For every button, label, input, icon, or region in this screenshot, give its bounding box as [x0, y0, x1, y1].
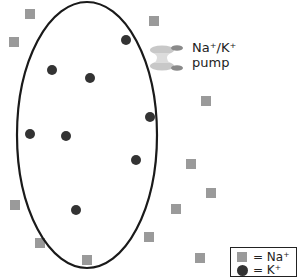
- sodium-ion-icon: [9, 37, 19, 47]
- potassium-ion-icon: [71, 205, 81, 215]
- potassium-ion-icon: [145, 112, 155, 122]
- legend-item-potassium: = K⁺: [237, 264, 281, 276]
- sodium-ion-icon: [144, 232, 154, 242]
- potassium-ion-icon: [47, 65, 57, 75]
- sodium-ion-icon: [186, 159, 196, 169]
- pump-label: Na⁺/K⁺ pump: [192, 40, 236, 70]
- sodium-ion-icon: [201, 96, 211, 106]
- pump-icon: [150, 45, 183, 71]
- sodium-ion-icon: [25, 9, 35, 19]
- potassium-ion-icon: [61, 131, 71, 141]
- cell-diagram: [0, 0, 301, 279]
- potassium-ion-icon: [131, 155, 141, 165]
- potassium-ion-icon: [25, 129, 35, 139]
- sodium-ion-icon: [10, 200, 20, 210]
- potassium-circle-icon: [237, 265, 248, 276]
- sodium-ion-icon: [149, 16, 159, 26]
- legend-item-sodium: = Na⁺: [237, 251, 290, 263]
- sodium-ion-icon: [195, 253, 205, 263]
- legend-label-sodium: = Na⁺: [253, 250, 290, 264]
- sodium-ion-icon: [171, 204, 181, 214]
- sodium-ion-icon: [82, 255, 92, 265]
- legend-label-potassium: = K⁺: [253, 263, 281, 277]
- sodium-ion-icon: [206, 188, 216, 198]
- sodium-square-icon: [237, 252, 247, 262]
- legend: = Na⁺ = K⁺: [230, 247, 297, 277]
- pump-label-line1: Na⁺/K⁺: [192, 40, 236, 55]
- cell-membrane: [17, 2, 157, 268]
- potassium-ion-icon: [121, 35, 131, 45]
- potassium-ion-icon: [85, 73, 95, 83]
- pump-label-line2: pump: [192, 55, 236, 70]
